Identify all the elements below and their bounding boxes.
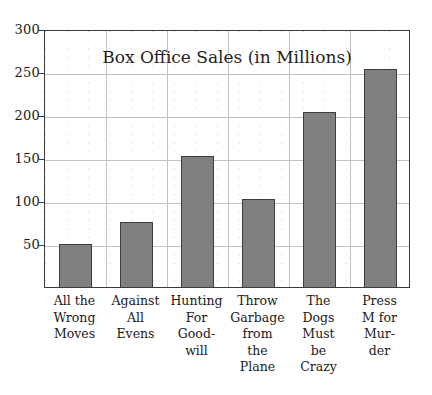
x-axis-label-line: Against <box>106 293 165 310</box>
y-axis-tick-label: 50 <box>4 238 40 251</box>
bar <box>59 244 93 287</box>
chart-title: Box Office Sales (in Millions) <box>44 46 410 68</box>
x-axis-label-line: from <box>228 326 287 343</box>
x-axis-tick-label: PressM forMur-der <box>349 293 410 393</box>
x-axis-tick-label: AgainstAllEvens <box>105 293 166 393</box>
x-axis-label-line: The <box>289 293 348 310</box>
x-axis-tick-label: HuntingForGood-will <box>166 293 227 393</box>
bar <box>120 222 154 287</box>
x-axis-label-line: All the <box>45 293 104 310</box>
bar <box>364 69 398 287</box>
category-separator <box>106 31 107 287</box>
x-axis-label-line: Dogs <box>289 310 348 327</box>
y-axis-tick-label: 150 <box>4 152 40 165</box>
x-axis-label-line: Crazy <box>289 359 348 376</box>
bar <box>303 112 337 287</box>
x-axis-label-line: Throw <box>228 293 287 310</box>
bar <box>181 156 215 287</box>
x-axis-label-line: Evens <box>106 326 165 343</box>
x-axis-label-line: be <box>289 343 348 360</box>
gridline <box>45 74 409 75</box>
x-axis-label-line: Hunting <box>167 293 226 310</box>
x-axis-tick-label: TheDogsMustbeCrazy <box>288 293 349 393</box>
y-axis-tick-label: 200 <box>4 109 40 122</box>
x-axis-label-line: For <box>167 310 226 327</box>
y-axis-tick-label: 250 <box>4 66 40 79</box>
gridline <box>45 160 409 161</box>
x-axis-tick-label: ThrowGarbagefromthePlane <box>227 293 288 393</box>
x-axis-label-line: will <box>167 343 226 360</box>
x-axis-label-line: Mur- <box>350 326 409 343</box>
x-axis-label-line: der <box>350 343 409 360</box>
category-separator <box>228 31 229 287</box>
y-axis-tick-label: 300 <box>4 23 40 36</box>
x-axis-label-line: All <box>106 310 165 327</box>
gridline <box>45 246 409 247</box>
category-separator <box>289 31 290 287</box>
x-axis-label-line: Press <box>350 293 409 310</box>
x-axis-tick-label: All theWrongMoves <box>44 293 105 393</box>
plot-area <box>44 30 410 288</box>
category-separator <box>350 31 351 287</box>
category-separator <box>167 31 168 287</box>
x-axis-label-line: Garbage <box>228 310 287 327</box>
x-axis: All theWrongMovesAgainstAllEvensHuntingF… <box>44 293 410 393</box>
x-axis-label-line: Must <box>289 326 348 343</box>
x-axis-label-line: Plane <box>228 359 287 376</box>
bar-chart: 50100150200250300 Box Office Sales (in M… <box>0 0 432 395</box>
x-axis-label-line: Moves <box>45 326 104 343</box>
x-axis-label-line: M for <box>350 310 409 327</box>
x-axis-label-line: the <box>228 343 287 360</box>
gridline <box>45 117 409 118</box>
bar <box>242 199 276 287</box>
y-axis-tick-label: 100 <box>4 195 40 208</box>
gridline <box>45 203 409 204</box>
x-axis-label-line: Wrong <box>45 310 104 327</box>
x-axis-label-line: Good- <box>167 326 226 343</box>
y-axis: 50100150200250300 <box>0 0 40 395</box>
